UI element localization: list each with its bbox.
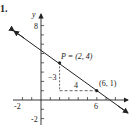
y-tick-label-8: 8 — [34, 22, 38, 31]
problem-number: 1. — [0, 3, 8, 14]
run-label: 4 — [74, 81, 78, 90]
x-tick-label-6: 6 — [94, 102, 98, 111]
line-start-arrow — [14, 31, 24, 38]
line — [14, 31, 128, 113]
point-q-label: (6, 1) — [99, 79, 117, 88]
y-axis-label: y — [31, 10, 36, 19]
point-p — [58, 61, 61, 64]
y-tick-label-neg2: -2 — [31, 115, 38, 124]
line-end-arrow — [118, 106, 128, 113]
point-q — [95, 89, 98, 92]
point-p-label: P = (2, 4) — [60, 52, 93, 61]
rise-label: −3 — [48, 73, 57, 82]
x-tick-label-neg2: -2 — [14, 102, 21, 111]
coordinate-diagram: 1. y -2 6 8 -2 −3 4 — [0, 0, 129, 133]
